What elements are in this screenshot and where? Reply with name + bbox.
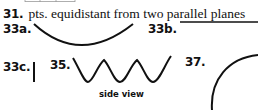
- wave-35-figure: [73, 56, 171, 82]
- answer-31-number: 31.: [3, 7, 23, 21]
- table-border-fragment: [25, 0, 75, 2]
- answer-31-text: pts. equidistant from two parallel plane…: [28, 6, 245, 21]
- answer-37-number: 37.: [185, 55, 205, 69]
- answer-33c-number: 33c.: [3, 60, 30, 74]
- answer-35-number: 35.: [50, 58, 70, 72]
- answer-31: 31. pts. equidistant from two parallel p…: [3, 3, 245, 22]
- circle-arc-37-figure: [212, 55, 258, 110]
- answer-35-caption: side view: [99, 89, 144, 99]
- answer-33b-number: 33b.: [148, 22, 177, 36]
- arc-33a-figure: [34, 24, 133, 45]
- answer-33a-number: 33a.: [3, 22, 31, 36]
